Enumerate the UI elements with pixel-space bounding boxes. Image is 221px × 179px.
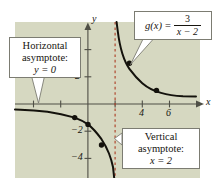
- formula-denominator: x − 2: [174, 27, 201, 37]
- y-tick-label-neg2: −2: [71, 124, 83, 135]
- function-formula-box: g(x) = 3 x − 2: [134, 11, 212, 40]
- horizontal-callout-line1: Horizontal: [14, 40, 76, 52]
- horizontal-callout-line2: asymptote:: [14, 52, 76, 64]
- horizontal-callout-line3: y = 0: [14, 64, 76, 76]
- vertical-callout-line1: Vertical: [127, 131, 195, 143]
- horizontal-callout-leader: [31, 74, 45, 103]
- formula-lhs: g(x): [145, 20, 162, 31]
- x-axis: [15, 101, 204, 108]
- y-tick-label-neg4: −4: [71, 151, 83, 162]
- y-axis: [85, 23, 92, 179]
- graph-figure: x y 4 6 4 2 −2 −4 Horizontal asymptote: …: [0, 0, 221, 178]
- horizontal-asymptote-callout: Horizontal asymptote: y = 0: [9, 37, 81, 78]
- x-tick-label-4: 4: [139, 107, 144, 118]
- vertical-callout-line3: x = 2: [127, 155, 195, 167]
- vertical-callout-line2: asymptote:: [127, 143, 195, 155]
- formula-numerator: 3: [182, 14, 193, 24]
- x-axis-label: x: [206, 96, 210, 107]
- formula-equals: =: [164, 20, 172, 31]
- x-tick-label-6: 6: [166, 107, 171, 118]
- vertical-asymptote-callout: Vertical asymptote: x = 2: [122, 128, 200, 169]
- y-axis-label: y: [92, 13, 96, 24]
- formula-fraction: 3 x − 2: [174, 14, 201, 37]
